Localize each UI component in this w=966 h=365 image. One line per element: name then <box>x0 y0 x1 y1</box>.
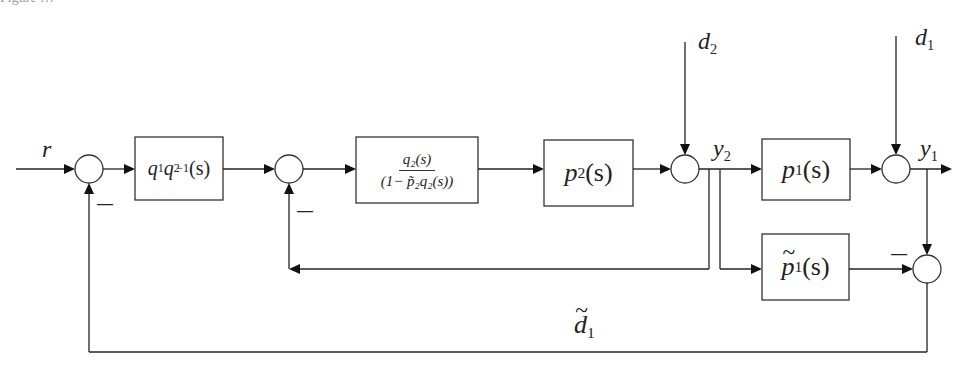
summing-junction-2 <box>275 155 303 183</box>
summing-junction-1 <box>75 155 103 183</box>
label-reference: r <box>42 136 51 163</box>
label-disturbance-1: d1 <box>915 24 934 54</box>
label-disturbance-2: d2 <box>698 28 717 58</box>
label-estimated-disturbance: d1 <box>574 310 595 342</box>
block-setpoint-filter: q1q2−1(s) <box>135 137 223 200</box>
block-inner-controller: q₂(s) (1− p̃₂q₂(s)) <box>356 137 478 203</box>
minus-sign-sum1: — <box>97 195 113 213</box>
label-output-2: y2 <box>713 135 731 165</box>
block-outer-model: p1(s) <box>762 234 849 300</box>
minus-sign-sum5: — <box>891 245 907 263</box>
minus-sign-sum2: — <box>297 202 313 220</box>
summing-junction-4 <box>882 155 910 183</box>
summing-junction-5 <box>913 255 941 283</box>
block-inner-plant: p2(s) <box>544 140 633 206</box>
summing-junction-3 <box>671 155 699 183</box>
block-outer-plant: p1(s) <box>762 139 850 200</box>
label-output-1: y1 <box>920 135 938 165</box>
